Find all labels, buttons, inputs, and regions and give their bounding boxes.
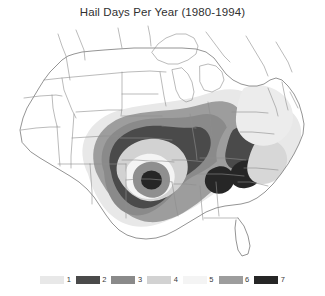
state-line-mn-east [160,72,166,106]
map-canvas [0,22,325,262]
legend-item-7[interactable]: 7 [254,276,285,284]
legend-label-1: 1 [67,276,71,284]
canada-line-1 [58,34,70,80]
legend: 1 2 3 4 5 6 7 [0,272,325,288]
legend-swatch-5 [183,276,207,284]
great-lakes-huron-erie [200,64,224,92]
legend-item-3[interactable]: 3 [111,276,142,284]
canada-line-7 [276,42,292,72]
state-line-mt-nd [121,72,122,116]
legend-label-7: 7 [281,276,285,284]
state-line-nv-ut [57,126,60,166]
legend-swatch-2 [76,276,100,284]
legend-item-6[interactable]: 6 [219,276,250,284]
legend-label-6: 6 [245,276,249,284]
legend-item-2[interactable]: 2 [76,276,107,284]
legend-item-4[interactable]: 4 [147,276,178,284]
state-line-id-mt [62,78,76,118]
legend-swatch-7 [254,276,278,284]
state-line-wa-or [24,95,62,98]
canada-line-5 [206,32,230,62]
canada-line-4 [148,26,151,46]
canada-line-3 [118,28,122,48]
legend-swatch-1 [40,276,64,284]
legend-label-2: 2 [102,276,106,284]
legend-swatch-4 [147,276,171,284]
legend-label-4: 4 [174,276,178,284]
contour-map [0,22,325,262]
state-line-ut-co [71,114,74,168]
legend-swatch-3 [111,276,135,284]
contour-bands [82,85,301,227]
legend-item-5[interactable]: 5 [183,276,214,284]
state-line-or-ca [21,127,60,130]
page-title: Hail Days Per Year (1980-1994) [0,6,325,18]
canada-line-6 [246,36,268,76]
legend-item-1[interactable]: 1 [40,276,71,284]
hail-days-figure: Hail Days Per Year (1980-1994) [0,0,325,296]
great-lakes-michigan [172,68,194,102]
state-line-id-west [52,95,57,126]
legend-label-5: 5 [209,276,213,284]
florida-peninsula [235,218,250,256]
legend-swatch-6 [219,276,243,284]
contour-band-gulf-speckle [241,209,253,222]
canada-line-2 [76,30,85,60]
legend-label-3: 3 [138,276,142,284]
